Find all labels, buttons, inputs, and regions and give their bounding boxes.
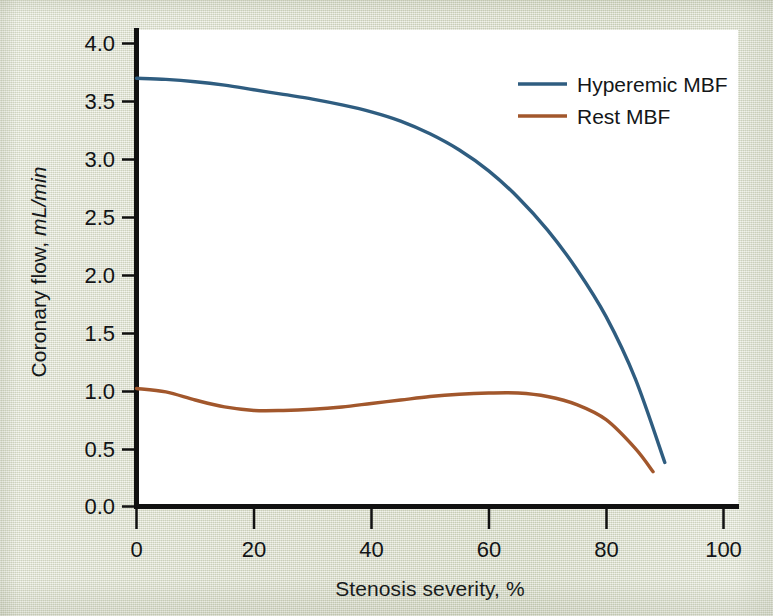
x-tick-label: 20 bbox=[242, 537, 266, 562]
legend-label-rest-mbf: Rest MBF bbox=[577, 105, 670, 128]
x-axis-title-text: Stenosis severity, % bbox=[335, 577, 525, 600]
x-axis-tick-labels: 0 20 40 60 80 100 bbox=[130, 537, 741, 562]
y-axis-tick-labels: 4.0 3.5 3.0 2.5 2.0 1.5 1.0 0.5 0.0 bbox=[84, 31, 115, 519]
y-tick-label: 3.0 bbox=[84, 147, 115, 172]
y-tick-label: 3.5 bbox=[84, 89, 115, 114]
y-tick-label: 2.0 bbox=[84, 263, 115, 288]
y-axis-title: Coronary flow, mL/min bbox=[27, 166, 50, 377]
figure-page: 4.0 3.5 3.0 2.5 2.0 1.5 1.0 0.5 0.0 bbox=[0, 0, 773, 616]
y-tick-label: 2.5 bbox=[84, 205, 115, 230]
y-tick-label: 1.5 bbox=[84, 321, 115, 346]
y-tick-label: 0.0 bbox=[84, 494, 115, 519]
plot-area-background bbox=[138, 30, 738, 507]
x-tick-label: 0 bbox=[130, 537, 142, 562]
y-tick-label: 0.5 bbox=[84, 437, 115, 462]
x-tick-label: 60 bbox=[477, 537, 501, 562]
legend-label-hyperemic-mbf: Hyperemic MBF bbox=[577, 73, 728, 96]
x-axis-ticks bbox=[137, 509, 724, 529]
chart-svg: 4.0 3.5 3.0 2.5 2.0 1.5 1.0 0.5 0.0 bbox=[0, 0, 773, 616]
x-tick-label: 80 bbox=[594, 537, 618, 562]
y-tick-label: 1.0 bbox=[84, 379, 115, 404]
chart-figure: 4.0 3.5 3.0 2.5 2.0 1.5 1.0 0.5 0.0 bbox=[0, 0, 773, 616]
y-axis-title-units: mL/min bbox=[27, 166, 50, 235]
x-tick-label: 100 bbox=[705, 537, 742, 562]
y-axis-title-text: Coronary flow, bbox=[27, 236, 50, 378]
y-tick-label: 4.0 bbox=[84, 31, 115, 56]
y-axis-ticks bbox=[122, 44, 136, 507]
x-axis-title: Stenosis severity, % bbox=[335, 577, 525, 600]
x-tick-label: 40 bbox=[359, 537, 383, 562]
